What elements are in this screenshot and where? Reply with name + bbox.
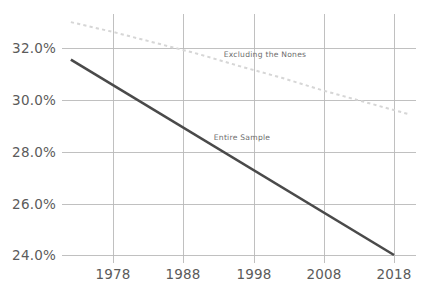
x-tick-label-1998: 1998: [236, 266, 271, 282]
y-tick-label-24: 24.0%: [12, 247, 56, 263]
series-label-excluding-the-nones: Excluding the Nones: [224, 50, 307, 59]
y-tick-label-32: 32.0%: [12, 40, 56, 56]
series-label-entire-sample: Entire Sample: [214, 133, 271, 142]
x-tick-label-2008: 2008: [306, 266, 341, 282]
y-tick-label-30: 30.0%: [12, 92, 56, 108]
y-tick-label-28: 28.0%: [12, 144, 56, 160]
x-tick-label-1988: 1988: [165, 266, 200, 282]
x-tick-label-1978: 1978: [95, 266, 130, 282]
x-tick-label-2018: 2018: [376, 266, 411, 282]
y-tick-label-26: 26.0%: [12, 196, 56, 212]
chart-background: [0, 0, 427, 299]
chart-canvas: 32.0% 30.0% 28.0% 26.0% 24.0% 1978 1988 …: [0, 0, 427, 299]
line-chart: 32.0% 30.0% 28.0% 26.0% 24.0% 1978 1988 …: [0, 0, 427, 299]
